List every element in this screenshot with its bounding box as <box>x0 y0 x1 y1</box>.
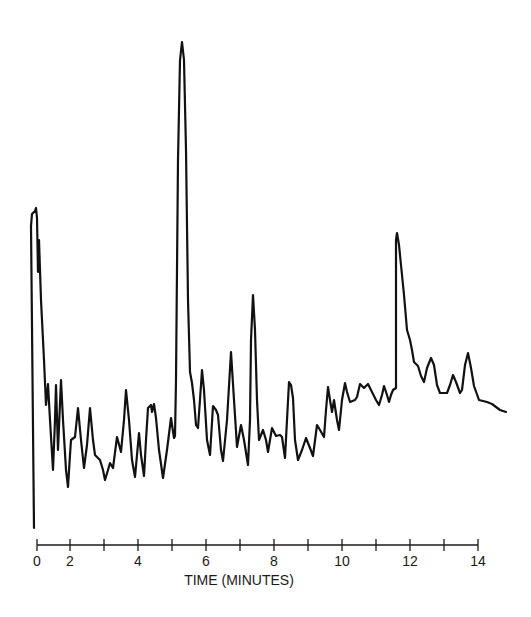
x-axis-tick-label: 2 <box>66 553 74 569</box>
chromatogram-trace-line <box>31 42 506 528</box>
x-axis-tick-label: 12 <box>402 553 418 569</box>
x-axis-tick-label: 6 <box>202 553 210 569</box>
x-axis-tick-labels: 02468101214 <box>33 553 486 569</box>
x-axis-tick-label: 4 <box>134 553 142 569</box>
x-axis-tick-label: 8 <box>270 553 278 569</box>
plot-area <box>31 42 506 528</box>
x-axis-title: TIME (MINUTES) <box>184 572 294 588</box>
chromatogram-chart: 02468101214 TIME (MINUTES) <box>0 0 531 617</box>
x-axis-tick-label: 0 <box>33 553 41 569</box>
x-axis-tick-label: 14 <box>470 553 486 569</box>
x-axis: 02468101214 TIME (MINUTES) <box>33 539 486 588</box>
x-axis-tick-label: 10 <box>334 553 350 569</box>
